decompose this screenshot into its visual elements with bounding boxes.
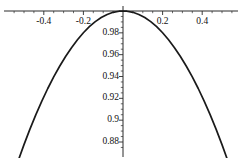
y-tick-label: 0.9 bbox=[107, 115, 119, 125]
x-tick-label: -0.2 bbox=[76, 17, 91, 27]
x-tick-label: 0.2 bbox=[157, 17, 169, 27]
axes-group bbox=[4, 6, 238, 157]
y-tick-label: 0.98 bbox=[102, 28, 119, 38]
y-tick-label: 0.96 bbox=[102, 50, 119, 60]
x-tick-label: -0.4 bbox=[36, 17, 51, 27]
y-tick-label: 0.94 bbox=[102, 72, 119, 82]
plot-figure: -0.4-0.20.20.4 0.980.960.940.920.90.88 bbox=[0, 0, 242, 158]
x-tick-label: 0.4 bbox=[196, 17, 208, 27]
y-tick-label: 0.88 bbox=[102, 137, 119, 147]
y-tick-label: 0.92 bbox=[102, 94, 119, 104]
y-axis-ticks bbox=[119, 16, 123, 147]
